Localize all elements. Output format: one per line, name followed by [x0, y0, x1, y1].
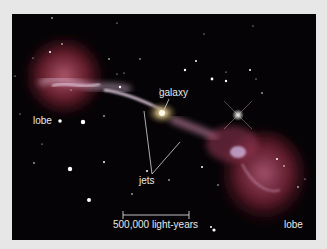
bright-star: [224, 101, 252, 129]
galaxy-label: galaxy: [159, 88, 188, 98]
lobe-right-label: lobe: [284, 220, 303, 230]
jets-label: jets: [139, 176, 155, 186]
left-lobe: [24, 36, 130, 116]
right-lobe: [170, 118, 308, 226]
scale-bar: [123, 211, 189, 219]
radio-galaxy-illustration: [12, 14, 316, 240]
lobe-left-label: lobe: [33, 116, 52, 126]
galaxy-image-frame: lobe galaxy jets 500,000 light-years lob…: [12, 14, 316, 240]
scale-bar-label: 500,000 light-years: [113, 220, 198, 230]
